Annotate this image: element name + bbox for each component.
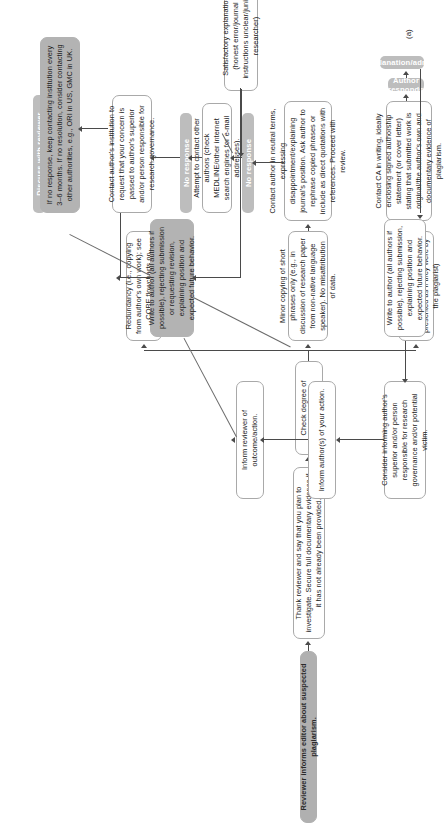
node-write-author-revision-main: Write to author (all authors if possible… xyxy=(150,219,194,337)
node-consider-informing-main: Consider informing author's superior and… xyxy=(384,381,426,499)
arrow-ca-responds xyxy=(403,94,409,98)
arrow-attempt-noresponse2 xyxy=(188,155,192,161)
connector-consider-informauthors xyxy=(340,439,384,440)
arrow-noresponse2-institution xyxy=(150,155,154,161)
node-minor-copying: Minor copying of short phrases only (e.g… xyxy=(288,231,328,341)
arrow-satisfactory-join xyxy=(238,153,244,157)
node-start-label: Reviewer informs editor about suspected … xyxy=(299,657,319,817)
connector-institution-from-writeauthor xyxy=(120,213,121,278)
arrow-branch-minor xyxy=(305,344,311,348)
node-attempt-other-authors-label: Attempt to contact other authors (check … xyxy=(192,109,242,207)
connector-noresponse2-institution xyxy=(154,157,180,158)
connector-start-thank xyxy=(308,644,309,651)
node-satisfactory-explanation-label: Satisfactory explanation (honest error/j… xyxy=(221,0,261,85)
connector-satisfactory-join xyxy=(241,89,242,153)
arrow-responds-unsat xyxy=(403,71,409,75)
bar-unsatisfactory: Unsatisfactory explanation/admits guilt xyxy=(380,56,424,69)
connector-unsat-writereject-real xyxy=(420,69,421,213)
node-contact-author-neutral: Contact author in neutral terms, express… xyxy=(284,101,332,221)
node-start: Reviewer informs editor about suspected … xyxy=(300,651,317,823)
node-contact-ca: Contact CA in writing, ideally enclosing… xyxy=(386,101,432,221)
arrow-noresponse1-attempt xyxy=(230,155,234,161)
node-satisfactory-explanation: Satisfactory explanation (honest error/j… xyxy=(224,0,258,91)
arrow-start-thank xyxy=(305,641,311,645)
arrow-satisfactory-write xyxy=(192,275,196,281)
figure-label: (a) xyxy=(404,29,413,39)
connector-check-branch xyxy=(308,351,309,361)
arrow-writeauthor-informreviewer xyxy=(231,437,235,443)
node-write-author-reject-label: Write to author (all authors if possible… xyxy=(385,225,425,331)
connector-informauthors-informreviewer xyxy=(264,439,308,440)
node-minor-copying-label: Minor copying of short phrases only (e.g… xyxy=(278,237,338,335)
node-contact-institution: Contact author's institution to request … xyxy=(112,95,152,213)
connector-writeauthor-informreviewer xyxy=(183,338,236,437)
connector-institution-keep xyxy=(82,128,108,129)
arrow-consider-informauthors xyxy=(336,437,340,443)
arrow-ca-noresponse1 xyxy=(252,160,256,166)
arrow-branch-clear xyxy=(413,344,419,348)
connector-ca-noresponse1 xyxy=(256,162,284,163)
arrow-writereject-consider xyxy=(402,379,408,383)
node-consider-informing-label: Consider informing author's superior and… xyxy=(380,387,430,493)
connector-attempt-noresponse2 xyxy=(192,157,202,158)
arrow-unsat-writereject xyxy=(417,215,423,219)
connector-branch-spine-down xyxy=(308,350,416,351)
connector-satisfactory-write xyxy=(196,277,240,278)
node-inform-authors: Inform author(s) of your action. xyxy=(308,381,336,499)
arrow-minor-neutral xyxy=(305,224,311,228)
arrow-institution-keep xyxy=(78,126,82,132)
connector-satisfactory-write-h xyxy=(240,88,241,278)
connector-branch-spine xyxy=(144,350,308,351)
node-write-author-revision-label: Write to author (all authors if possible… xyxy=(147,225,197,331)
bar-author-responds-label: Author responds xyxy=(388,76,424,94)
arrow-branch-redundancy xyxy=(141,344,147,348)
node-contact-author-neutral-label: Contact author in neutral terms, express… xyxy=(268,107,348,215)
connector-writereject-consider-h xyxy=(405,341,406,379)
bar-no-response-2-label: No response xyxy=(182,139,191,187)
node-contact-ca-label: Contact CA in writing, ideally enclosing… xyxy=(374,107,444,215)
connector-writeauthor-institution xyxy=(120,277,150,278)
node-attempt-other-authors: Attempt to contact other authors (check … xyxy=(202,103,232,213)
node-write-author-reject-main: Write to author (all authors if possible… xyxy=(384,219,426,337)
node-contact-institution-label: Contact author's institution to request … xyxy=(107,101,157,207)
node-no-response-keep: If no response, keep contacting institut… xyxy=(40,37,80,213)
node-inform-authors-label: Inform author(s) of your action. xyxy=(317,387,327,493)
node-no-response-keep-label: If no response, keep contacting institut… xyxy=(45,43,75,207)
node-inform-reviewer-label: Inform reviewer of outcome/action. xyxy=(240,387,260,493)
arrow-informauthors-informreviewer xyxy=(260,437,264,443)
bar-unsatisfactory-label: Unsatisfactory explanation/admits guilt xyxy=(366,49,438,76)
bar-no-response-2: No response xyxy=(180,113,192,213)
bar-author-responds: Author responds xyxy=(388,78,424,91)
